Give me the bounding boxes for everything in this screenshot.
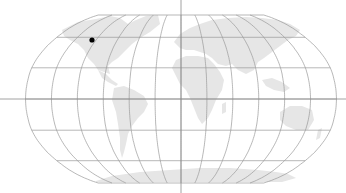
location-marker-icon[interactable] bbox=[89, 37, 94, 42]
southeast-asia-land bbox=[262, 78, 290, 92]
world-map[interactable] bbox=[0, 0, 346, 193]
madagascar-land bbox=[222, 102, 226, 114]
land-layer bbox=[62, 15, 322, 182]
africa-land bbox=[172, 56, 224, 124]
map-canvas[interactable] bbox=[0, 0, 346, 193]
new-zealand-land bbox=[316, 128, 322, 140]
